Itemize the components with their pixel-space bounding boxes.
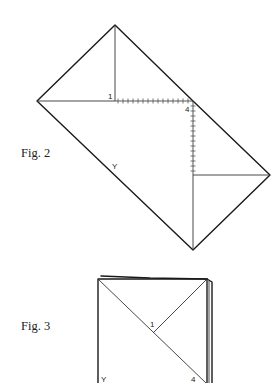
fig3-label-4: 4 xyxy=(191,375,196,383)
fig3-label-y: Y xyxy=(101,375,107,383)
figure-2: 1 4 Y Fig. 2 xyxy=(21,25,270,250)
fig2-label-4: 4 xyxy=(185,105,190,114)
figure-3: 1 Y 4 Fig. 3 xyxy=(21,276,212,383)
fig3-diagonal-upper xyxy=(153,279,207,333)
fig2-label-y: Y xyxy=(112,162,118,171)
fig3-back-sheet-right xyxy=(207,279,212,383)
fig3-caption: Fig. 3 xyxy=(21,319,50,333)
fig3-diagonal-main xyxy=(98,279,206,383)
folding-diagram: 1 4 Y Fig. 2 1 Y 4 Fig. 3 xyxy=(0,0,280,383)
fig3-label-1: 1 xyxy=(150,320,155,329)
fig2-outline xyxy=(37,25,270,250)
fig2-caption: Fig. 2 xyxy=(21,146,50,160)
fig2-label-1: 1 xyxy=(108,92,113,101)
